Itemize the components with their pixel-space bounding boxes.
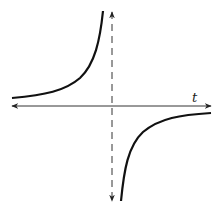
graph: t [0, 0, 223, 213]
curve-right-branch [121, 113, 211, 201]
curve-left-branch [12, 11, 103, 98]
t-axis-label: t [192, 90, 198, 105]
